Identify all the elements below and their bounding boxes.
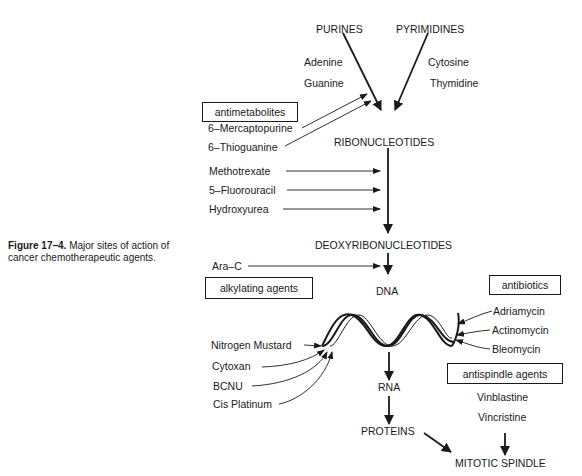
group-label-antispindle-agents: antispindle agents [463,368,548,380]
drug-ara-c: Ara–C [212,261,242,272]
figure-caption: Figure 17–4. Major sites of action of ca… [8,240,208,264]
node-deoxyribonucleotides: DEOXYRIBONUCLEOTIDES [315,240,452,251]
drug-methotrexate: Methotrexate [209,166,270,177]
drug-cytoxan: Cytoxan [212,361,251,372]
base-guanine: Guanine [304,78,344,89]
drug-adriamycin: Adriamycin [493,306,545,317]
drug-bcnu: BCNU [213,381,243,392]
actinomycin-arrow [457,330,490,335]
drug-bleomycin: Bleomycin [492,344,540,355]
pyrimidines-arrow [395,33,428,110]
node-ribonucleotides: RIBONUCLEOTIDES [334,137,434,148]
node-pyrimidines: PYRIMIDINES [396,24,464,35]
mercaptopurine-arrow [302,94,367,128]
group-box-antibiotics: antibiotics [489,275,561,295]
drug-fluorouracil: 5–Fluorouracil [209,185,276,196]
caption-text-line1: Major sites of action of [69,240,169,251]
group-label-antibiotics: antibiotics [502,279,549,291]
drug-vinblastine: Vinblastine [477,392,528,403]
bcnu-arrow [252,352,327,386]
adriamycin-arrow [458,311,492,324]
node-dna: DNA [376,286,398,297]
base-thymidine: Thymidine [430,78,478,89]
group-label-alkylating-agents: alkylating agents [220,282,298,294]
caption-text-line2: cancer chemotherapeutic agents. [8,252,156,263]
drug-nitrogen-mustard: Nitrogen Mustard [211,340,292,351]
drug-cis-platinum: Cis Platinum [213,399,272,410]
node-purines: PURINES [316,24,363,35]
group-box-antimetabolites: antimetabolites [202,102,298,122]
drug-mercaptopurine: 6–Mercaptopurine [208,123,293,134]
proteins-to-spindle-arrow [424,433,451,452]
cytoxan-arrow [262,350,324,367]
dna-helix [322,313,459,346]
base-cytosine: Cytosine [428,57,469,68]
base-adenine: Adenine [304,57,343,68]
drug-hydroxyurea: Hydroxyurea [209,204,269,215]
drug-vincristine: Vincristine [478,412,526,423]
pathway-arrows [0,0,582,476]
group-box-antispindle-agents: antispindle agents [447,363,563,384]
drug-actinomycin: Actinomycin [492,325,549,336]
group-label-antimetabolites: antimetabolites [215,106,286,118]
purines-arrow [343,33,381,110]
bleomycin-arrow [456,340,490,349]
node-rna: RNA [378,382,400,393]
figure-label: Figure 17–4. [8,240,66,251]
node-mitotic-spindle: MITOTIC SPINDLE [455,458,546,469]
drug-thioguanine: 6–Thioguanine [208,142,277,153]
group-box-alkylating-agents: alkylating agents [205,277,313,299]
nitrogen-mustard-arrow [304,345,321,346]
node-proteins: PROTEINS [361,426,415,437]
